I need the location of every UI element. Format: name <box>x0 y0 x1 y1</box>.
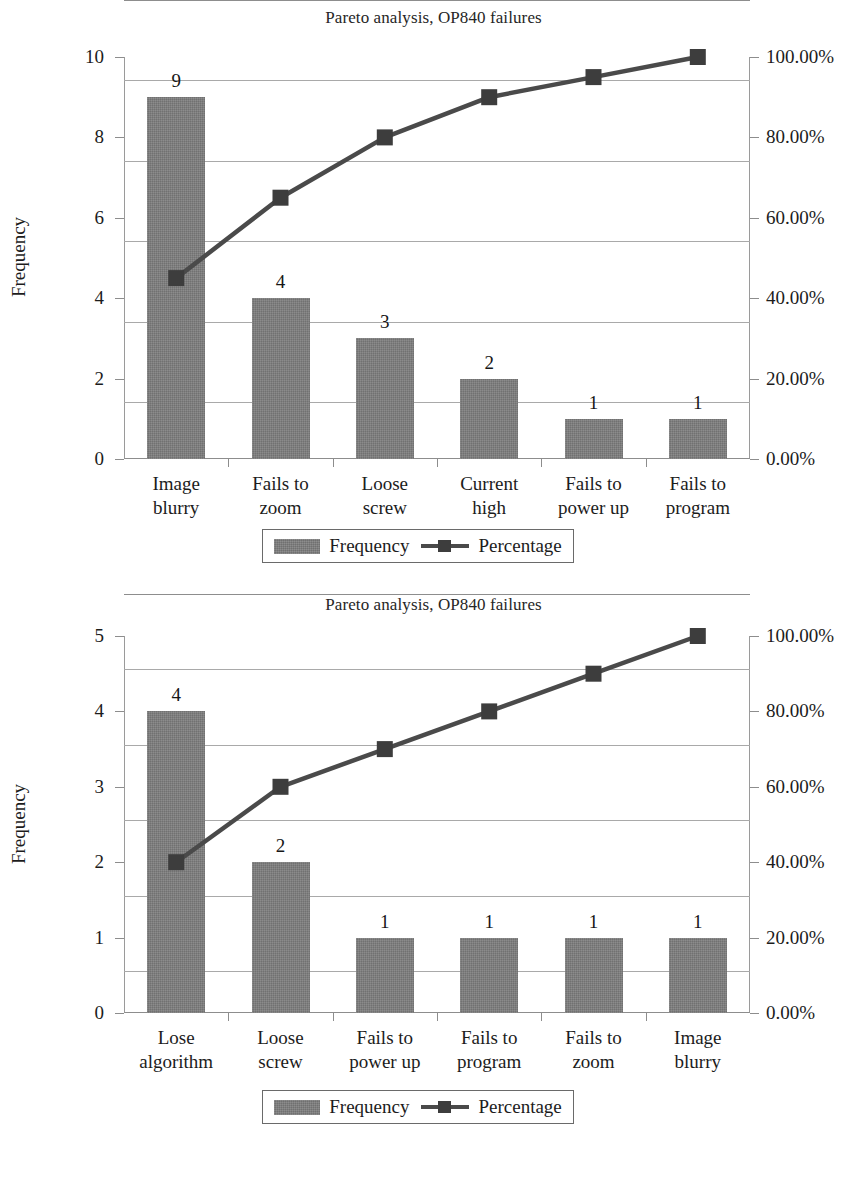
y2-axis-tickmark <box>750 1013 759 1014</box>
category-label-line: program <box>640 496 756 520</box>
frequency-swatch-icon <box>274 539 320 554</box>
y2-axis-tickmark <box>750 459 759 460</box>
bar-value-label: 4 <box>136 685 216 704</box>
category-label-line: power up <box>535 496 651 520</box>
y-axis-tickmark <box>115 298 124 299</box>
y2-axis-tick-label: 100.00% <box>766 626 867 645</box>
y-axis-tickmark <box>115 57 124 58</box>
chart-2-legend: Frequency Percentage <box>262 1090 574 1124</box>
y-axis-tick-label: 2 <box>32 852 104 871</box>
y2-axis-tick-label: 40.00% <box>766 852 867 871</box>
bar <box>252 862 310 1013</box>
y-axis-tickmark <box>115 938 124 939</box>
category-label-line: zoom <box>535 1050 651 1074</box>
x-axis-tickmark <box>228 459 229 467</box>
category-label-line: Fails to <box>222 472 338 496</box>
category-label-line: Fails to <box>535 472 651 496</box>
y2-axis-tick-label: 60.00% <box>766 208 867 227</box>
y-axis-tick-label: 0 <box>32 449 104 468</box>
y-axis-tickmark <box>115 862 124 863</box>
category-label-line: Loose <box>222 1026 338 1050</box>
x-axis-tickmark <box>646 459 647 467</box>
y2-axis-tick-label: 20.00% <box>766 369 867 388</box>
category-label-line: algorithm <box>118 1050 234 1074</box>
x-axis-tickmark <box>333 459 334 467</box>
percentage-line-marker-icon <box>421 1099 469 1115</box>
y2-axis-tick-label: 40.00% <box>766 288 867 307</box>
y-axis-tickmark <box>115 379 124 380</box>
bar-value-label: 2 <box>449 353 529 372</box>
pareto-chart-2: Pareto analysis, OP840 failures 00.00%12… <box>0 594 867 1188</box>
category-label-line: screw <box>222 1050 338 1074</box>
legend-label-percentage: Percentage <box>478 535 561 557</box>
chart-1-legend: Frequency Percentage <box>262 529 574 563</box>
gridline <box>124 745 750 746</box>
x-axis-tickmark <box>437 1013 438 1021</box>
x-axis-category-label: Loosescrew <box>222 1026 338 1074</box>
y-axis-tickmark <box>115 459 124 460</box>
gridline <box>124 820 750 821</box>
y-axis-tick-label: 5 <box>32 626 104 645</box>
chart-1-plot-area <box>124 57 750 459</box>
y2-axis-tickmark <box>750 379 759 380</box>
x-axis-category-label: Fails topower up <box>535 472 651 520</box>
bar-value-label: 1 <box>554 912 634 931</box>
category-label-line: Fails to <box>640 472 756 496</box>
y2-axis-tick-label: 20.00% <box>766 928 867 947</box>
category-label-line: Image <box>118 472 234 496</box>
x-axis-category-label: Imageblurry <box>118 472 234 520</box>
category-label-line: Loose <box>327 472 443 496</box>
y-axis-tickmark <box>115 636 124 637</box>
y2-axis-tick-label: 60.00% <box>766 777 867 796</box>
y-axis-tick-label: 10 <box>32 47 104 66</box>
bar <box>669 938 727 1013</box>
bar-value-label: 9 <box>136 71 216 90</box>
x-axis-category-label: Imageblurry <box>640 1026 756 1074</box>
y-axis-tick-label: 2 <box>32 369 104 388</box>
gridline <box>124 0 750 1</box>
legend-entry-percentage: Percentage <box>421 535 561 557</box>
legend-label-percentage: Percentage <box>478 1096 561 1118</box>
y-axis-tick-label: 6 <box>32 208 104 227</box>
y2-axis-tick-label: 80.00% <box>766 127 867 146</box>
x-axis-category-label: Losealgorithm <box>118 1026 234 1074</box>
legend-entry-percentage: Percentage <box>421 1096 561 1118</box>
gridline <box>124 322 750 323</box>
category-label-line: high <box>431 496 547 520</box>
bar <box>460 379 518 459</box>
legend-label-frequency: Frequency <box>329 535 409 557</box>
y2-axis-tickmark <box>750 137 759 138</box>
gridline <box>124 971 750 972</box>
bar-value-label: 1 <box>658 393 738 412</box>
bar <box>669 419 727 459</box>
category-label-line: zoom <box>222 496 338 520</box>
x-axis-category-label: Fails toprogram <box>431 1026 547 1074</box>
y-axis-title: Frequency <box>8 744 30 904</box>
y2-axis-tickmark <box>750 938 759 939</box>
bar <box>252 298 310 459</box>
gridline <box>124 594 750 595</box>
chart-2-plot-area <box>124 636 750 1013</box>
bar <box>565 938 623 1013</box>
category-label-line: Fails to <box>535 1026 651 1050</box>
category-label-line: power up <box>327 1050 443 1074</box>
gridline <box>124 669 750 670</box>
y-axis-tickmark <box>115 218 124 219</box>
y-axis-title: Frequency <box>8 177 30 337</box>
chart-2-title: Pareto analysis, OP840 failures <box>0 595 867 615</box>
x-axis-tickmark <box>646 1013 647 1021</box>
frequency-swatch-icon <box>274 1100 320 1115</box>
chart-1-title: Pareto analysis, OP840 failures <box>0 8 867 28</box>
y2-axis-tickmark <box>750 57 759 58</box>
category-label-line: Fails to <box>431 1026 547 1050</box>
category-label-line: Current <box>431 472 547 496</box>
x-axis-category-label: Fails tozoom <box>222 472 338 520</box>
x-axis-tickmark <box>333 1013 334 1021</box>
percentage-line-marker-icon <box>421 538 469 554</box>
bar-value-label: 2 <box>241 836 321 855</box>
x-axis-tickmark <box>437 459 438 467</box>
category-label-line: Fails to <box>327 1026 443 1050</box>
x-axis-category-label: Fails tozoom <box>535 1026 651 1074</box>
bar <box>356 338 414 459</box>
category-label-line: blurry <box>640 1050 756 1074</box>
